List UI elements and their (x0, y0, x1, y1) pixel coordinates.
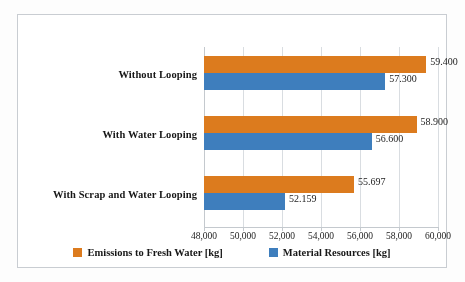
bar-emissions-with-water-looping[interactable] (204, 116, 417, 133)
value-label-material-with-scrap-and-water-looping: 52.159 (289, 193, 317, 204)
category-label-with-water-looping: With Water Looping (0, 129, 197, 140)
value-label-emissions-with-water-looping: 58.900 (421, 116, 449, 127)
bar-material-with-scrap-and-water-looping[interactable] (204, 193, 285, 210)
bar-emissions-without-looping[interactable] (204, 56, 426, 73)
gridline-60000 (438, 47, 439, 227)
value-label-material-without-looping: 57.300 (389, 73, 417, 84)
value-label-material-with-water-looping: 56.600 (376, 133, 404, 144)
bar-emissions-with-scrap-and-water-looping[interactable] (204, 176, 354, 193)
plot-area: 59.400 57.300 58.900 56.600 55.697 52.15… (204, 47, 438, 227)
legend-swatch-material-icon (269, 248, 278, 257)
category-label-with-scrap-and-water-looping: With Scrap and Water Looping (0, 189, 197, 200)
legend-label-emissions: Emissions to Fresh Water [kg] (87, 247, 222, 258)
chart-legend: Emissions to Fresh Water [kg] Material R… (18, 241, 446, 263)
value-label-emissions-with-scrap-and-water-looping: 55.697 (358, 176, 386, 187)
chart-frame: 59.400 57.300 58.900 56.600 55.697 52.15… (17, 14, 447, 268)
legend-item-emissions-to-fresh-water[interactable]: Emissions to Fresh Water [kg] (73, 247, 222, 258)
chart-figure: 59.400 57.300 58.900 56.600 55.697 52.15… (0, 0, 465, 282)
bar-material-without-looping[interactable] (204, 73, 385, 90)
legend-item-material-resources[interactable]: Material Resources [kg] (269, 247, 391, 258)
legend-label-material: Material Resources [kg] (283, 247, 391, 258)
value-label-emissions-without-looping: 59.400 (430, 56, 458, 67)
legend-swatch-emissions-icon (73, 248, 82, 257)
xtick-label-60000: 60,000 (415, 231, 461, 241)
bar-material-with-water-looping[interactable] (204, 133, 372, 150)
category-label-without-looping: Without Looping (0, 69, 197, 80)
